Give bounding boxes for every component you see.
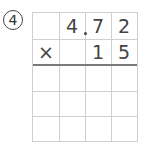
multiplication-grid: 4 7 2 × 1 5 [32,12,138,142]
digit-cell: 1 [85,39,111,65]
operator-cell: × [33,39,59,65]
decimal-point [84,32,87,35]
digit-cell: 4 [59,13,85,39]
problem-number: 4 [3,10,23,30]
digit-cell: 7 [85,13,111,39]
grid-divider [33,91,137,92]
digit-cell [33,13,59,39]
grid-divider [33,116,137,117]
digit-cell [59,39,85,65]
digit-cell: 5 [111,39,137,65]
digit-cell: 2 [111,13,137,39]
